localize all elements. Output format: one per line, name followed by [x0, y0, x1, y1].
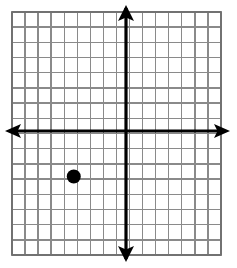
data-points: [67, 170, 81, 184]
coordinate-plane-figure: Coordinate grid with one plotted point: [0, 0, 237, 268]
coordinate-plane-canvas: [0, 0, 237, 268]
plotted-point-marker: [67, 170, 81, 184]
